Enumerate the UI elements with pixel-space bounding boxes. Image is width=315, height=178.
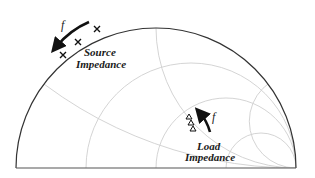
source-label-line2: Impedance [75, 58, 126, 70]
smith-chart: f Source Impedance f Load Impedance [0, 0, 315, 178]
smith-grid [0, 0, 315, 178]
x-marker-icon [94, 26, 100, 32]
x-marker-icon [60, 52, 66, 58]
x-marker-icon [75, 39, 81, 45]
triangle-marker-icon [190, 126, 196, 131]
source-frequency-label: f [61, 18, 66, 32]
source-label-line1: Source [84, 46, 116, 58]
load-impedance-group: f Load Impedance [184, 110, 235, 163]
load-frequency-arrow [200, 113, 210, 132]
load-triangle-markers [186, 114, 196, 131]
unit-circle [16, 28, 296, 168]
load-frequency-label: f [212, 110, 217, 124]
load-label-line2: Impedance [184, 151, 235, 163]
resistance-circle-three [226, 133, 296, 178]
